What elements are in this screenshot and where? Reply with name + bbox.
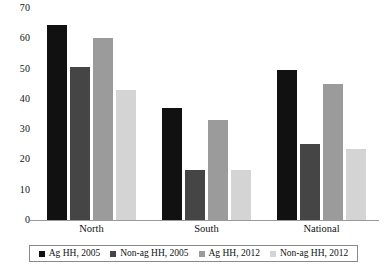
category-label: National: [264, 222, 379, 238]
legend-label: Non-ag HH, 2012: [280, 248, 348, 259]
bar-groups: [34, 8, 379, 220]
y-axis-tick-label: 30: [4, 124, 30, 134]
bar: [47, 25, 67, 220]
x-axis-line: [30, 220, 379, 221]
y-axis-tick-label: 70: [4, 3, 30, 13]
bar-group: [34, 8, 149, 220]
category-label: South: [149, 222, 264, 238]
bar: [208, 120, 228, 220]
legend-swatch-icon: [39, 251, 45, 257]
category-labels: NorthSouthNational: [34, 222, 379, 238]
y-axis-tick-label: 10: [4, 185, 30, 195]
y-axis: 706050403020100: [0, 8, 30, 220]
bar: [300, 144, 320, 220]
legend-swatch-icon: [199, 251, 205, 257]
bar: [93, 38, 113, 220]
y-axis-tick-label: 50: [4, 64, 30, 74]
legend-swatch-icon: [110, 251, 116, 257]
bar: [162, 108, 182, 220]
legend-label: Non-ag HH, 2005: [120, 248, 188, 259]
legend-item[interactable]: Non-ag HH, 2012: [270, 248, 348, 259]
bar: [70, 67, 90, 220]
category-label: North: [34, 222, 149, 238]
y-axis-tick-label: 40: [4, 94, 30, 104]
legend-item[interactable]: Ag HH, 2005: [39, 248, 100, 259]
legend-label: Ag HH, 2005: [49, 248, 100, 259]
bar: [346, 149, 366, 220]
legend-swatch-icon: [270, 251, 276, 257]
chart-legend: Ag HH, 2005Non-ag HH, 2005Ag HH, 2012Non…: [29, 245, 358, 262]
bar-chart: 706050403020100 NorthSouthNational Ag HH…: [0, 0, 389, 270]
bar: [231, 170, 251, 220]
y-axis-tick-label: 60: [4, 33, 30, 43]
legend-label: Ag HH, 2012: [209, 248, 260, 259]
bar: [185, 170, 205, 220]
bar: [116, 90, 136, 220]
legend-item[interactable]: Non-ag HH, 2005: [110, 248, 188, 259]
legend-item[interactable]: Ag HH, 2012: [199, 248, 260, 259]
bar-group: [264, 8, 379, 220]
bar: [323, 84, 343, 220]
bar-group: [149, 8, 264, 220]
bar: [277, 70, 297, 220]
y-axis-tick-label: 20: [4, 154, 30, 164]
y-axis-tick-label: 0: [4, 215, 30, 225]
